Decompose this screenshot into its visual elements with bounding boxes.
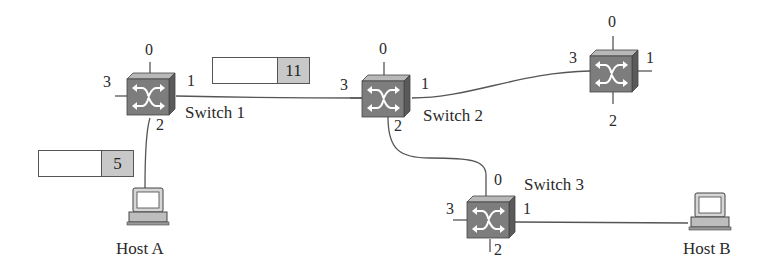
packet-header-host-a: 5 (38, 150, 134, 177)
host-b-label: Host B (683, 240, 731, 257)
switch1-label: Switch 1 (185, 104, 245, 121)
switch2-port-1: 1 (421, 76, 429, 92)
host-a-computer-icon[interactable] (127, 188, 169, 225)
switch2-port-3: 3 (340, 77, 348, 93)
switch1-port-3: 3 (103, 74, 111, 90)
switch4-port-0: 0 (608, 14, 616, 30)
switch3-port-3: 3 (446, 201, 454, 217)
switch2-label: Switch 2 (423, 107, 483, 124)
link-switch2-switch4 (412, 71, 590, 98)
header-port-value: 5 (101, 151, 133, 176)
packet-header-switch1: 11 (212, 57, 310, 84)
host-b-computer-icon[interactable] (689, 193, 731, 230)
switch4-icon[interactable] (590, 50, 638, 92)
switch1-port-1: 1 (187, 73, 195, 89)
switch4-port-1: 1 (646, 50, 654, 66)
switch4-port-2: 2 (609, 113, 617, 129)
host-a-label: Host A (116, 240, 164, 257)
link-switch1-switch2 (176, 96, 362, 98)
switch3-port-1: 1 (523, 201, 531, 217)
switch3-label: Switch 3 (524, 176, 584, 193)
link-switch1-hostA (145, 118, 150, 188)
switch2-port-2: 2 (394, 118, 402, 134)
switch2-icon[interactable] (362, 75, 410, 117)
switch3-port-2: 2 (494, 242, 502, 258)
network-diagram-canvas (0, 0, 781, 279)
switch2-port-0: 0 (379, 41, 387, 57)
switch1-port-0: 0 (145, 42, 153, 58)
switch3-icon[interactable] (467, 196, 515, 238)
header-port-value: 11 (277, 58, 309, 83)
switch1-icon[interactable] (127, 73, 175, 115)
link-switch3-hostB (515, 222, 688, 223)
link-switch2-switch3 (388, 117, 486, 198)
switch1-port-2: 2 (156, 117, 164, 133)
switch4-port-3: 3 (569, 50, 577, 66)
switch3-port-0: 0 (494, 172, 502, 188)
